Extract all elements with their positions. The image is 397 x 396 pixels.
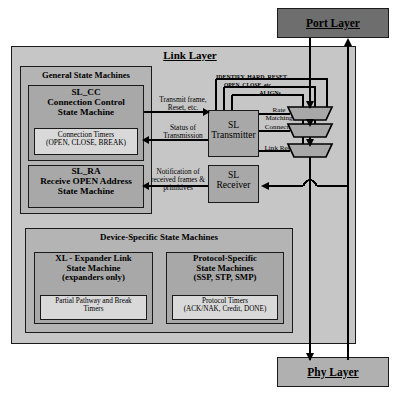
diagram-canvas: Port Layer Phy Layer Link Layer General … [0,0,397,396]
arrow-transmit-frame [203,108,210,116]
arrow-receiver-in [261,182,269,190]
arrow-notification [142,182,149,190]
wire-aligns [232,95,303,144]
wiring-overlay [0,0,397,396]
arrow-status-transmission [142,136,149,144]
arrow-to-port [344,38,352,46]
arrow-to-phy [306,353,314,361]
